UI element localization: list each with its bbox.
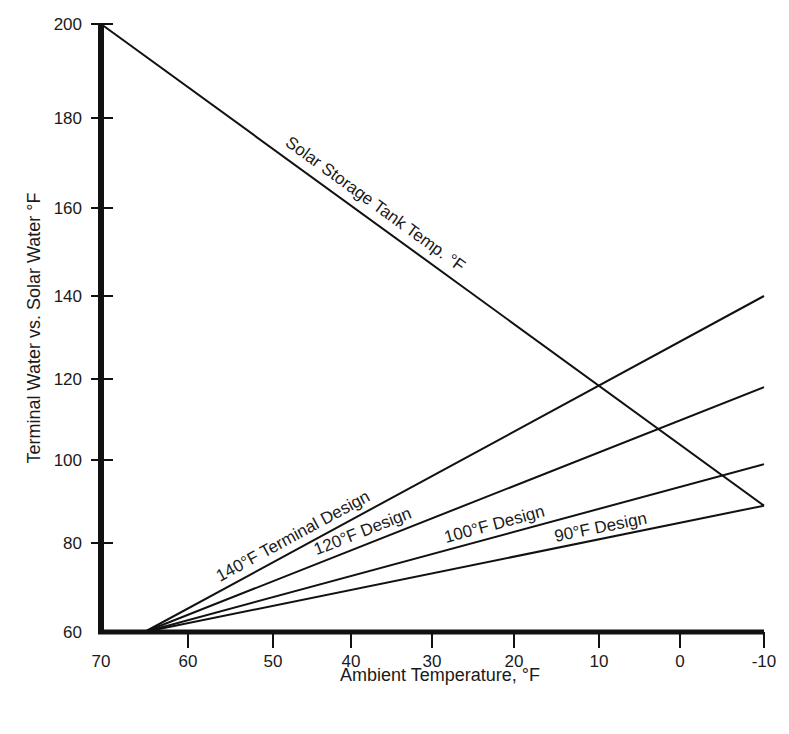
x-tick-label: -10 (752, 652, 777, 671)
series-line (145, 387, 765, 632)
x-tick-label: 10 (590, 652, 609, 671)
y-tick-label: 160 (54, 199, 82, 218)
y-tick-label: 200 (54, 15, 82, 34)
x-tick-label: 70 (92, 652, 111, 671)
svg-text:90°F Design: 90°F Design (553, 509, 649, 546)
x-tick-label: 60 (179, 652, 198, 671)
x-tick-label: 0 (675, 652, 684, 671)
chart-canvas: 6080100120140160180200706050403020100-10… (0, 0, 789, 734)
y-axis-title: Terminal Water vs. Solar Water °F (24, 193, 44, 464)
y-tick-label: 120 (54, 370, 82, 389)
x-axis-title: Ambient Temperature, °F (340, 665, 540, 685)
x-tick-label: 50 (264, 652, 283, 671)
y-tick-label: 80 (63, 534, 82, 553)
series-line (145, 296, 765, 632)
ticks: 6080100120140160180200706050403020100-10 (54, 15, 777, 671)
series-label: 90°F Design (553, 509, 649, 546)
series-line (145, 464, 765, 632)
series-line (101, 24, 764, 506)
series-labels: Solar Storage Tank Temp. °F140°F Termina… (213, 133, 649, 586)
y-tick-label: 100 (54, 451, 82, 470)
series-lines (101, 24, 764, 632)
axes (98, 24, 764, 632)
series-label: Solar Storage Tank Temp. °F (282, 133, 469, 276)
y-tick-label: 180 (54, 109, 82, 128)
y-tick-label: 60 (63, 623, 82, 642)
svg-text:Solar Storage Tank Temp. °F: Solar Storage Tank Temp. °F (282, 133, 469, 276)
y-tick-label: 140 (54, 287, 82, 306)
